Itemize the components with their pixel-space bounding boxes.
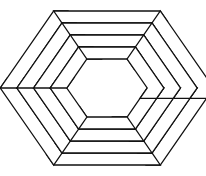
slat-group — [0, 11, 206, 165]
hexagon-frames-figure — [0, 0, 206, 176]
nested-hexagon-drawing — [0, 0, 206, 176]
